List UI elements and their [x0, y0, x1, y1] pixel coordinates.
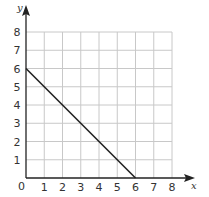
y-tick-label: 1 — [14, 154, 21, 167]
y-tick-label: 3 — [14, 117, 21, 130]
x-tick-label: 1 — [41, 181, 48, 194]
x-tick-label: 7 — [150, 181, 157, 194]
grid — [26, 32, 172, 178]
x-tick-label: 2 — [59, 181, 66, 194]
y-tick-label: 5 — [14, 81, 21, 94]
x-tick-label: 5 — [114, 181, 121, 194]
y-tick-label: 7 — [14, 44, 21, 57]
x-tick-label: 4 — [96, 181, 103, 194]
x-tick-labels: 12345678 — [41, 181, 176, 194]
origin-label: 0 — [18, 180, 25, 193]
x-tick-label: 3 — [77, 181, 84, 194]
axes: x y 0 — [16, 2, 197, 193]
x-axis-label: x — [191, 180, 197, 191]
y-tick-label: 6 — [14, 63, 21, 76]
x-tick-label: 6 — [132, 181, 139, 194]
y-axis-label: y — [16, 2, 23, 13]
y-tick-label: 2 — [14, 136, 21, 149]
line-chart: x y 0 12345678 12345678 — [0, 0, 209, 197]
y-tick-label: 4 — [14, 99, 21, 112]
y-tick-labels: 12345678 — [14, 26, 21, 167]
y-tick-label: 8 — [14, 26, 21, 39]
x-tick-label: 8 — [169, 181, 176, 194]
